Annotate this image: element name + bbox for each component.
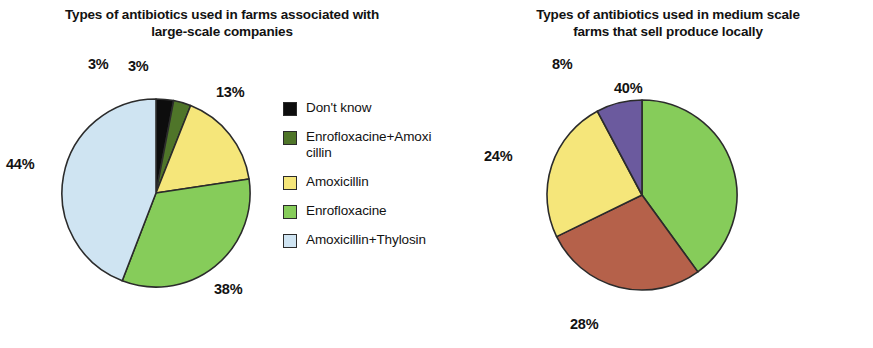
pie-value-label-amoxicillin: 24%	[484, 148, 512, 164]
legend-swatch-icon	[283, 205, 297, 219]
pie-value-label-enro-amox: 3%	[128, 58, 149, 74]
pie-chart-medium-scale	[542, 95, 742, 295]
legend-item-amoxicillin-thylosin[interactable]: Amoxicillin+Thylosin	[283, 232, 448, 248]
legend-label: Don't know	[306, 100, 371, 116]
legend-item-enrofloxacine-amoxicillin[interactable]: Enrofloxacine+Amoxi cillin	[283, 129, 448, 161]
legend-item-amoxicillin[interactable]: Amoxicillin	[283, 174, 448, 190]
pie-svg-large-scale	[58, 95, 254, 291]
legend-label: Enrofloxacine+Amoxi cillin	[306, 129, 431, 161]
legend-swatch-icon	[283, 131, 297, 145]
pie-value-label-other: 8%	[552, 56, 573, 72]
chart-title-medium-scale: Types of antibiotics used in medium scal…	[458, 6, 873, 40]
pie-svg-medium-scale	[542, 95, 742, 295]
chart-panel-large-scale: Types of antibiotics used in farms assoc…	[0, 0, 450, 348]
chart-title-line-1: Types of antibiotics used in farms assoc…	[65, 7, 379, 22]
pie-value-label-dont-know: 3%	[88, 56, 109, 72]
chart-panel-medium-scale: Types of antibiotics used in medium scal…	[450, 0, 873, 348]
pie-chart-large-scale	[58, 95, 254, 291]
legend-label: Amoxicillin+Thylosin	[306, 232, 426, 248]
pie-value-label-tetracycline: 28%	[570, 316, 598, 332]
pie-value-label-enrofloxacin: 40%	[614, 80, 642, 96]
chart-title-line-1: Types of antibiotics used in medium scal…	[536, 7, 800, 22]
legend-swatch-icon	[283, 102, 297, 116]
legend-label-line-1: Enrofloxacine+Amoxi	[306, 129, 431, 144]
legend-swatch-icon	[283, 234, 297, 248]
chart-title-line-2: farms that sell produce locally	[573, 24, 763, 39]
legend-label: Enrofloxacine	[306, 203, 387, 219]
legend-item-enrofloxacine[interactable]: Enrofloxacine	[283, 203, 448, 219]
chart-title-large-scale: Types of antibiotics used in farms assoc…	[2, 6, 442, 40]
pie-value-label-enrofloxacine: 38%	[214, 281, 242, 297]
pie-value-label-amox-thylosin: 44%	[6, 156, 34, 172]
chart-title-line-2: large-scale companies	[151, 24, 293, 39]
legend-label: Amoxicillin	[306, 174, 369, 190]
legend-label-line-2: cillin	[306, 145, 431, 161]
legend-large-scale: Don't know Enrofloxacine+Amoxi cillin Am…	[283, 100, 448, 261]
legend-swatch-icon	[283, 176, 297, 190]
pie-value-label-amoxicillin: 13%	[216, 84, 244, 100]
legend-item-dont-know[interactable]: Don't know	[283, 100, 448, 116]
